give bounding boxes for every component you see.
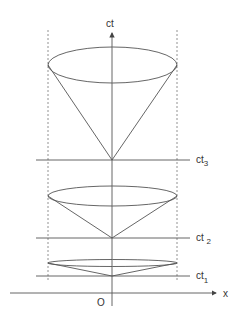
ct2-label: ct 2 [196,232,212,246]
ct-axis-label: ct [106,18,114,29]
x-axis-label: x [223,288,228,299]
cone-top [48,47,177,160]
origin-label: O [97,297,105,308]
ct3-label: ct3 [196,154,209,168]
spacetime-diagram: ct x O ct3 ct 2 ct1 [0,0,242,325]
cone-bottom [48,260,177,277]
cone-middle [48,186,177,238]
ct1-label: ct1 [196,270,209,285]
